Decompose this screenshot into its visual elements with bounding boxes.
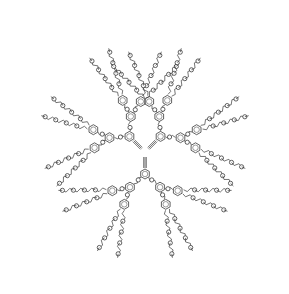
bond [222, 106, 223, 111]
benzene-ring [156, 182, 165, 192]
aromatic-circle [138, 99, 144, 105]
oxygen-atom [118, 135, 122, 139]
bond [168, 91, 171, 94]
benzene-ring [192, 125, 201, 135]
aromatic-circle [194, 127, 200, 133]
bond [80, 126, 85, 128]
bond [152, 68, 154, 73]
benzene-ring [145, 97, 154, 107]
bond [126, 198, 129, 200]
oxygen-atom [189, 68, 193, 72]
bond [84, 126, 87, 129]
bond [117, 246, 120, 250]
bond [206, 203, 211, 205]
oxygen-atom [64, 208, 68, 212]
oxygen-atom [240, 165, 244, 169]
oxygen-atom [205, 158, 209, 162]
bond [157, 58, 159, 63]
benzene-ring [120, 199, 129, 209]
bond [186, 242, 191, 243]
bond [198, 188, 202, 192]
oxygen-atom [160, 193, 164, 197]
bond [205, 120, 206, 125]
bond [194, 63, 195, 68]
bond [56, 102, 61, 103]
bond [135, 140, 143, 148]
benzene-ring [163, 95, 172, 105]
oxygen-atom [125, 107, 129, 111]
bond [114, 137, 117, 139]
bond [220, 188, 224, 192]
bond [170, 213, 175, 214]
bond [164, 210, 165, 214]
bond [59, 120, 64, 122]
bond [112, 221, 113, 226]
bond [119, 235, 122, 239]
oxygen-atom [193, 188, 197, 192]
bond [122, 214, 125, 218]
bond [101, 240, 102, 245]
bond [171, 76, 173, 81]
benzene-ring [156, 131, 165, 141]
oxygen-atom [178, 50, 182, 54]
bond [134, 141, 142, 149]
oxygen-atom [101, 140, 105, 144]
bond [73, 153, 75, 158]
oxygen-atom [119, 230, 123, 234]
aromatic-circle [158, 134, 164, 140]
oxygen-atom [165, 219, 169, 223]
oxygen-atom [128, 125, 132, 129]
dendrimer-diagram [0, 0, 289, 294]
bond [113, 91, 118, 92]
bond [228, 119, 231, 123]
oxygen-atom [186, 132, 190, 136]
aromatic-circle [146, 99, 152, 105]
aromatic-circle [157, 114, 163, 120]
aromatic-circle [175, 188, 181, 194]
aromatic-circle [163, 202, 169, 208]
bond [106, 83, 111, 84]
bond [187, 188, 191, 192]
aromatic-circle [178, 135, 184, 141]
benzene-ring [136, 97, 145, 107]
oxygen-atom [43, 115, 47, 119]
oxygen-atom [204, 188, 208, 192]
bond [93, 65, 98, 66]
oxygen-atom [65, 174, 69, 178]
bond [199, 153, 200, 157]
bond [99, 188, 103, 192]
bond [164, 196, 165, 199]
bond [175, 223, 180, 224]
bond [214, 113, 215, 118]
bond [155, 180, 156, 184]
molecule-structure [0, 0, 289, 294]
bond [69, 123, 74, 125]
bond [88, 188, 92, 192]
bond [168, 87, 170, 92]
bond [128, 121, 130, 124]
aromatic-circle [127, 134, 133, 140]
bond [231, 100, 232, 105]
bond [238, 116, 241, 120]
oxygen-atom [176, 85, 180, 89]
oxygen-atom [158, 125, 162, 129]
bond [190, 142, 191, 145]
bond [63, 158, 65, 163]
bond [171, 187, 173, 189]
bond [66, 188, 70, 192]
bond [203, 129, 207, 130]
aromatic-circle [122, 202, 128, 208]
oxygen-atom [213, 166, 217, 170]
bond [117, 211, 118, 216]
aromatic-circle [128, 114, 134, 120]
oxygen-atom [136, 178, 140, 182]
bond [172, 135, 175, 137]
aromatic-circle [127, 184, 133, 190]
bond [109, 56, 113, 59]
bond [201, 125, 205, 126]
bond [70, 205, 72, 210]
benzene-ring [126, 112, 135, 122]
bond [164, 214, 168, 217]
oxygen-atom [120, 187, 124, 191]
aromatic-circle [193, 145, 199, 151]
